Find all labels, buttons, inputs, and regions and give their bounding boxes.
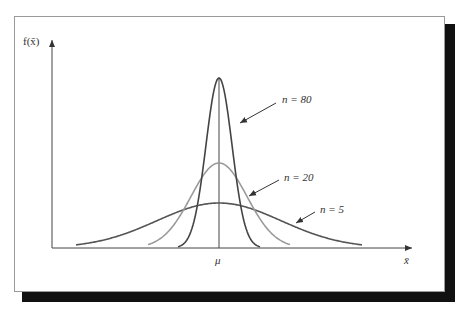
label-n20: n = 20	[284, 171, 314, 183]
label-n80: n = 80	[282, 93, 312, 105]
arrow-n5	[296, 212, 315, 223]
mu-tick-label: μ	[214, 254, 221, 266]
x-axis-label: x̄	[403, 254, 409, 266]
arrow-n80	[240, 103, 276, 123]
distribution-chart: f(x̄) x̄ μ n = 80 n = 20 n = 5	[0, 0, 469, 314]
y-axis-label: f(x̄)	[23, 35, 40, 48]
label-n5: n = 5	[320, 203, 344, 215]
arrow-n20	[249, 180, 279, 196]
